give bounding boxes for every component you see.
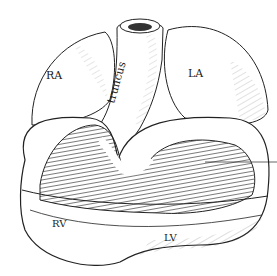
label-left-ventricle: LV [164, 232, 177, 243]
heart-diagram: RA LA truncus RV LV [0, 0, 277, 276]
label-right-ventricle: RV [52, 218, 67, 229]
label-right-atrium: RA [46, 69, 63, 82]
label-left-atrium: LA [188, 67, 204, 80]
